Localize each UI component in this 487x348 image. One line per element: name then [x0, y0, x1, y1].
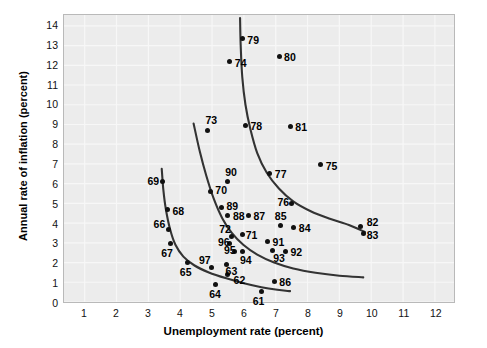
y-tick-12: 12	[34, 60, 58, 70]
y-tick-6: 6	[34, 179, 58, 189]
data-point-label-63: 63	[226, 266, 238, 276]
y-tick-1: 1	[34, 278, 58, 288]
y-tick-7: 7	[34, 159, 58, 169]
data-point-label-74: 74	[235, 58, 247, 68]
x-tick-7: 7	[264, 308, 288, 318]
data-point-label-77: 77	[275, 169, 287, 179]
data-point-label-93: 93	[273, 253, 285, 263]
data-point-81	[288, 124, 293, 129]
data-point-label-61: 61	[253, 296, 265, 306]
x-tick-4: 4	[168, 308, 192, 318]
data-point-label-91: 91	[273, 237, 285, 247]
data-point-label-65: 65	[180, 267, 192, 277]
x-tick-2: 2	[104, 308, 128, 318]
y-tick-13: 13	[34, 40, 58, 50]
x-tick-1: 1	[72, 308, 96, 318]
data-point-71	[240, 232, 245, 237]
data-point-label-88: 88	[233, 211, 245, 221]
data-point-label-90: 90	[225, 167, 237, 177]
x-tick-11: 11	[392, 308, 416, 318]
x-tick-12: 12	[424, 308, 448, 318]
y-tick-10: 10	[34, 99, 58, 109]
x-tick-8: 8	[296, 308, 320, 318]
y-tick-5: 5	[34, 199, 58, 209]
data-point-label-83: 83	[367, 230, 379, 240]
data-point-label-82: 82	[367, 217, 379, 227]
data-point-84	[291, 225, 296, 230]
data-point-86	[272, 279, 277, 284]
data-point-68	[165, 207, 170, 212]
y-tick-2: 2	[34, 258, 58, 268]
data-point-label-86: 86	[279, 277, 291, 287]
data-point-label-85: 85	[275, 211, 287, 221]
y-tick-8: 8	[34, 139, 58, 149]
y-tick-11: 11	[34, 80, 58, 90]
x-tick-5: 5	[200, 308, 224, 318]
plot-area	[63, 14, 455, 303]
data-point-73	[205, 128, 210, 133]
data-point-70	[208, 189, 213, 194]
data-point-label-94: 94	[240, 255, 252, 265]
y-tick-0: 0	[34, 298, 58, 308]
x-tick-10: 10	[360, 308, 384, 318]
data-point-label-64: 64	[209, 289, 221, 299]
y-axis-label: Annual rate of inflation (percent)	[17, 41, 29, 271]
data-layer	[64, 15, 454, 302]
data-point-78	[243, 123, 248, 128]
data-point-label-80: 80	[284, 52, 296, 62]
data-point-label-87: 87	[253, 211, 265, 221]
y-tick-14: 14	[34, 20, 58, 30]
data-point-label-68: 68	[172, 206, 184, 216]
y-tick-3: 3	[34, 238, 58, 248]
x-tick-6: 6	[232, 308, 256, 318]
data-point-label-67: 67	[161, 248, 173, 258]
data-point-label-71: 71	[246, 230, 258, 240]
data-point-label-78: 78	[251, 121, 263, 131]
data-point-label-70: 70	[215, 185, 227, 195]
data-point-label-76: 76	[277, 197, 289, 207]
data-point-label-89: 89	[227, 201, 239, 211]
data-point-label-66: 66	[154, 219, 166, 229]
data-point-label-73: 73	[205, 115, 217, 125]
y-axis-ticks: 01234567891011121314	[30, 0, 58, 348]
data-point-64	[213, 282, 218, 287]
data-point-label-92: 92	[291, 247, 303, 257]
data-point-label-81: 81	[295, 122, 307, 132]
data-point-label-97: 97	[199, 255, 211, 265]
data-point-label-96: 96	[218, 237, 230, 247]
data-point-67	[168, 241, 173, 246]
y-tick-4: 4	[34, 219, 58, 229]
data-point-80	[277, 54, 282, 59]
data-point-label-72: 72	[219, 224, 231, 234]
data-point-label-75: 75	[326, 161, 338, 171]
data-point-61	[259, 289, 264, 294]
data-point-label-69: 69	[147, 176, 159, 186]
x-tick-3: 3	[136, 308, 160, 318]
x-tick-9: 9	[328, 308, 352, 318]
x-axis-ticks: 123456789101112	[0, 308, 487, 322]
phillips-curve-figure: 6162636465666768697071727374757677787980…	[0, 0, 487, 348]
x-axis-label: Unemployment rate (percent)	[0, 325, 487, 337]
y-tick-9: 9	[34, 119, 58, 129]
data-point-label-84: 84	[299, 223, 311, 233]
data-point-label-79: 79	[247, 35, 259, 45]
